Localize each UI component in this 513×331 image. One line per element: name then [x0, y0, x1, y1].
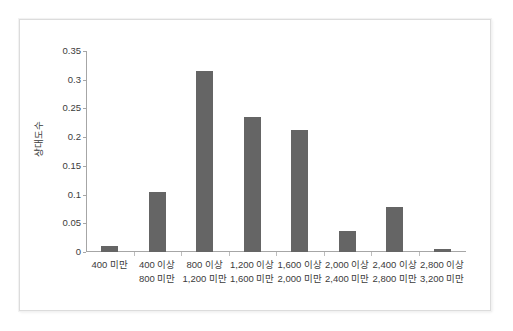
x-axis-category-label: 1,600 이상2,000 미만: [276, 258, 324, 286]
x-category-line-1: 800 이상: [187, 259, 224, 270]
x-category-line-2: 2,000 미만: [276, 272, 324, 286]
x-category-line-1: 1,600 이상: [278, 259, 322, 270]
x-category-line-1: 2,000 이상: [325, 259, 369, 270]
x-category-line-1: 400 이상: [139, 259, 176, 270]
x-axis-tick-mark: [419, 252, 420, 256]
x-axis-category-label: 2,800 이상3,200 미만: [419, 258, 467, 286]
y-axis-tick-labels: 0.350.30.250.20.150.10.050: [47, 20, 81, 312]
x-axis-tick-mark: [181, 252, 182, 256]
bar: [339, 231, 356, 252]
x-axis-tick-mark: [276, 252, 277, 256]
x-category-line-2: 3,200 미만: [419, 272, 467, 286]
y-axis-tick-label: 0.2: [47, 132, 81, 142]
y-axis-tick-mark: [83, 223, 86, 224]
y-axis-tick-mark: [83, 80, 86, 81]
bar: [291, 130, 308, 252]
y-axis-title: 상대도수: [31, 104, 45, 174]
x-category-line-1: 2,800 이상: [420, 259, 464, 270]
x-axis-category-label: 2,400 이상2,800 미만: [371, 258, 419, 286]
chart-figure-frame: 상대도수 0.350.30.250.20.150.10.050 400 미만40…: [19, 19, 491, 311]
bar-chart-plot-area: 상대도수 0.350.30.250.20.150.10.050 400 미만40…: [20, 20, 492, 312]
x-category-line-2: 1,600 미만: [229, 272, 277, 286]
x-category-line-2: 2,800 미만: [371, 272, 419, 286]
x-axis-category-labels: 400 미만400 이상800 미만800 이상1,200 미만1,200 이상…: [86, 258, 466, 306]
bar: [386, 207, 403, 252]
x-category-line-2: 2,400 미만: [324, 272, 372, 286]
x-axis-tick-mark: [229, 252, 230, 256]
y-axis-tick-label: 0.3: [47, 75, 81, 85]
bar: [196, 71, 213, 252]
y-axis-tick-label: 0.15: [47, 161, 81, 171]
x-axis-category-label: 800 이상1,200 미만: [181, 258, 229, 286]
y-axis-tick-mark: [83, 137, 86, 138]
y-axis-tick-label: 0.05: [47, 218, 81, 228]
x-axis-tick-mark: [134, 252, 135, 256]
bar: [434, 249, 451, 252]
x-axis-tick-mark: [371, 252, 372, 256]
x-category-line-1: 2,400 이상: [373, 259, 417, 270]
x-axis-category-label: 400 미만: [86, 258, 134, 272]
y-axis-tick-label: 0.1: [47, 190, 81, 200]
x-axis-category-label: 2,000 이상2,400 미만: [324, 258, 372, 286]
y-axis-tick-label: 0: [47, 247, 81, 257]
y-axis-tick-label: 0.35: [47, 46, 81, 56]
x-axis-tick-mark: [324, 252, 325, 256]
y-axis-tick-mark: [83, 108, 86, 109]
x-category-line-2: 800 미만: [134, 272, 182, 286]
x-axis-category-label: 1,200 이상1,600 미만: [229, 258, 277, 286]
bar-series: [86, 51, 466, 252]
bar: [244, 117, 261, 252]
x-category-line-1: 400 미만: [92, 259, 129, 270]
y-axis-tick-mark: [83, 195, 86, 196]
x-category-line-2: 1,200 미만: [181, 272, 229, 286]
bar: [101, 246, 118, 252]
bar: [149, 192, 166, 252]
y-axis-tick-mark: [83, 166, 86, 167]
y-axis-tick-mark: [83, 252, 86, 253]
y-axis-tick-label: 0.25: [47, 103, 81, 113]
x-axis-category-label: 400 이상800 미만: [134, 258, 182, 286]
y-axis-tick-mark: [83, 51, 86, 52]
x-category-line-1: 1,200 이상: [230, 259, 274, 270]
